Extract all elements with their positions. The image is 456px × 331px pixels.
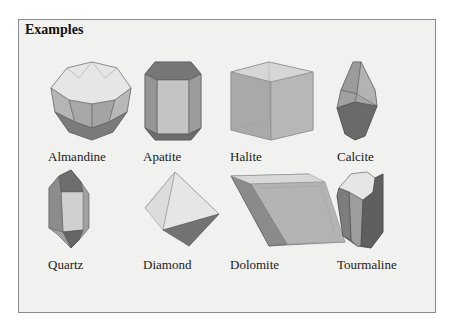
mineral-label-quartz: Quartz <box>48 257 83 273</box>
mineral-label-tourmaline: Tourmaline <box>337 257 397 273</box>
tourmaline-crystal-icon <box>335 170 385 250</box>
diamond-crystal-icon <box>143 170 221 248</box>
mineral-label-calcite: Calcite <box>337 149 374 165</box>
examples-panel: Examples Almandine Apatite Halite <box>18 19 436 313</box>
quartz-crystal-icon <box>47 168 91 250</box>
mineral-label-halite: Halite <box>230 149 262 165</box>
panel-title: Examples <box>25 22 83 38</box>
dolomite-crystal-icon <box>229 172 347 248</box>
mineral-label-almandine: Almandine <box>48 149 106 165</box>
mineral-label-dolomite: Dolomite <box>230 257 279 273</box>
mineral-label-diamond: Diamond <box>143 257 191 273</box>
mineral-label-apatite: Apatite <box>143 149 181 165</box>
apatite-crystal-icon <box>143 60 203 142</box>
halite-crystal-icon <box>229 60 315 142</box>
calcite-crystal-icon <box>335 60 379 142</box>
almandine-crystal-icon <box>47 60 137 145</box>
